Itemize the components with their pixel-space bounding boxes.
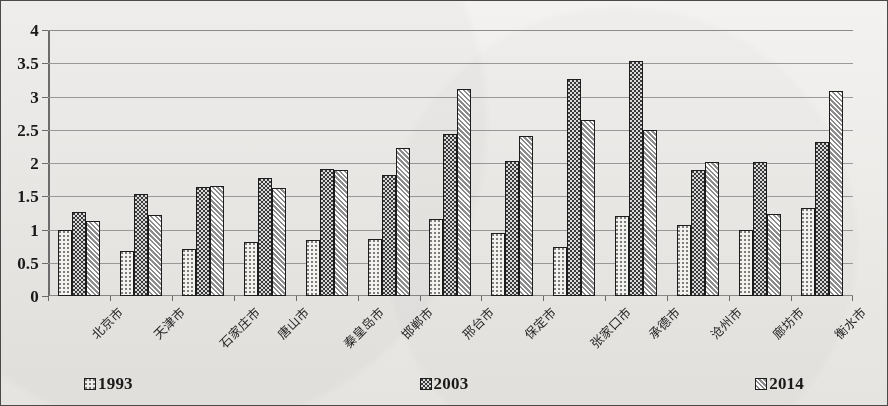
bar-1993 — [306, 240, 320, 296]
bar-2003 — [443, 134, 457, 296]
bar-group — [172, 30, 234, 296]
bar-group — [296, 30, 358, 296]
x-axis-label-cell: 北京市 — [48, 298, 110, 370]
x-axis-labels: 北京市天津市石家庄市唐山市秦皇岛市邯郸市邢台市保定市张家口市承德市沧州市廊坊市衡… — [48, 298, 853, 370]
bar-2003 — [134, 194, 148, 296]
bar-group — [667, 30, 729, 296]
bar-group — [358, 30, 420, 296]
bar-2014 — [457, 89, 471, 296]
bar-1993 — [429, 219, 443, 296]
y-axis-tick-label: 1 — [30, 221, 39, 238]
bar-2014 — [581, 120, 595, 296]
bar-groups — [48, 30, 853, 296]
x-axis-label-cell: 廊坊市 — [729, 298, 791, 370]
bar-1993 — [182, 249, 196, 296]
x-axis-label-cell: 石家庄市 — [172, 298, 234, 370]
x-axis-label-cell: 秦皇岛市 — [296, 298, 358, 370]
bar-2014 — [643, 130, 657, 296]
legend-swatch-icon — [84, 378, 96, 390]
y-axis-tick-label: 3 — [30, 88, 39, 105]
legend-item-1993[interactable]: 1993 — [84, 374, 133, 394]
bar-2014 — [829, 91, 843, 296]
bar-2003 — [320, 169, 334, 296]
bar-2014 — [148, 215, 162, 296]
bar-2003 — [753, 162, 767, 296]
legend-swatch-icon — [420, 378, 432, 390]
y-axis-tick-label: 3.5 — [17, 55, 39, 72]
x-axis-label-cell: 邢台市 — [420, 298, 482, 370]
x-axis-label: 衡水市 — [829, 302, 870, 343]
bar-group — [791, 30, 853, 296]
bar-2014 — [210, 186, 224, 296]
bar-group — [48, 30, 110, 296]
bar-1993 — [244, 242, 258, 296]
bar-group — [234, 30, 296, 296]
bar-2003 — [196, 187, 210, 296]
legend-label: 2003 — [434, 374, 469, 394]
bar-group — [729, 30, 791, 296]
x-axis-label-cell: 邯郸市 — [358, 298, 420, 370]
bar-2014 — [334, 170, 348, 296]
bar-2003 — [382, 175, 396, 296]
bar-1993 — [368, 239, 382, 296]
bar-2003 — [72, 212, 86, 296]
bar-1993 — [677, 225, 691, 296]
bar-2003 — [505, 161, 519, 296]
legend-item-2014[interactable]: 2014 — [755, 374, 804, 394]
plot-area: 43.532.521.510.50 — [48, 30, 853, 296]
bar-2003 — [691, 170, 705, 296]
x-axis-label-cell: 承德市 — [605, 298, 667, 370]
bar-2014 — [519, 136, 533, 296]
bar-2003 — [629, 61, 643, 296]
bar-2014 — [396, 148, 410, 296]
bar-1993 — [801, 208, 815, 296]
bar-chart-figure: 43.532.521.510.50 北京市天津市石家庄市唐山市秦皇岛市邯郸市邢台… — [0, 0, 888, 406]
y-axis-tick-label: 2 — [30, 155, 39, 172]
chart-legend: 199320032014 — [1, 371, 887, 397]
bar-group — [605, 30, 667, 296]
bar-2014 — [86, 221, 100, 296]
bar-1993 — [615, 216, 629, 296]
y-axis-tick-label: 0 — [30, 288, 39, 305]
bar-1993 — [739, 230, 753, 297]
bar-1993 — [553, 247, 567, 296]
x-axis-label-cell: 唐山市 — [234, 298, 296, 370]
bar-group — [110, 30, 172, 296]
y-axis-tick-label: 1.5 — [17, 188, 39, 205]
bar-group — [420, 30, 482, 296]
y-axis-tick-label: 4 — [30, 22, 39, 39]
bar-2014 — [767, 214, 781, 296]
x-axis-label-cell: 沧州市 — [667, 298, 729, 370]
bar-2014 — [272, 188, 286, 296]
bar-group — [481, 30, 543, 296]
bar-2003 — [815, 142, 829, 296]
bar-2003 — [258, 178, 272, 296]
bar-group — [543, 30, 605, 296]
bar-2003 — [567, 79, 581, 296]
bar-1993 — [58, 230, 72, 297]
x-axis-label-cell: 衡水市 — [791, 298, 853, 370]
x-axis-label-cell: 张家口市 — [543, 298, 605, 370]
bar-1993 — [120, 251, 134, 296]
y-axis-tick-label: 2.5 — [17, 121, 39, 138]
x-axis-label-cell: 保定市 — [481, 298, 543, 370]
legend-item-2003[interactable]: 2003 — [420, 374, 469, 394]
legend-label: 2014 — [769, 374, 804, 394]
legend-swatch-icon — [755, 378, 767, 390]
legend-label: 1993 — [98, 374, 133, 394]
x-axis-label-cell: 天津市 — [110, 298, 172, 370]
bar-2014 — [705, 162, 719, 296]
bar-1993 — [491, 233, 505, 296]
y-axis-tick-label: 0.5 — [17, 254, 39, 271]
